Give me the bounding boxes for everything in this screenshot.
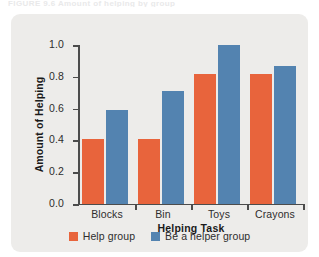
y-axis-tick-label: 0.2 [49,165,64,177]
legend-item-1[interactable]: Help group [69,230,135,242]
legend-item-2[interactable]: Be a helper group [151,230,250,242]
bar-blocks-series-1[interactable] [82,139,104,204]
bar-crayons-series-2[interactable] [274,66,296,204]
chart-panel: Amount of Helping Helping Task 0.00.20.4… [11,14,308,252]
legend-label: Be a helper group [165,230,250,242]
x-axis-tick [303,204,305,210]
y-axis-tick-label: 0.6 [49,102,64,114]
legend-swatch-icon [151,232,160,241]
bar-group: Bin [135,45,191,204]
y-axis-tick-label: 0.4 [49,133,64,145]
bar-toys-series-2[interactable] [218,45,240,204]
bar-group: Blocks [79,45,135,204]
y-axis-tick-label: 0.8 [49,70,64,82]
y-axis-tick: 0.0 [73,204,79,206]
x-axis-category-label: Crayons [247,208,303,220]
chart-legend: Help groupBe a helper group [11,230,308,242]
bar-blocks-series-2[interactable] [106,110,128,204]
figure-caption-sliver: FIGURE 9.6 Amount of helping by group [8,0,308,7]
bar-group: Crayons [247,45,303,204]
figure-container: FIGURE 9.6 Amount of helping by group Am… [0,0,319,257]
x-axis-category-label: Bin [135,208,191,220]
bar-group: Toys [191,45,247,204]
bar-bin-series-2[interactable] [162,91,184,204]
y-axis-tick-label: 1.0 [49,38,64,50]
bar-bin-series-1[interactable] [138,139,160,204]
plot-area: 0.00.20.40.60.81.0 BlocksBinToysCrayons [79,45,303,204]
legend-swatch-icon [69,232,78,241]
y-axis-tick-label: 0.0 [49,197,64,209]
bar-crayons-series-1[interactable] [250,74,272,204]
y-axis-title: Amount of Helping [33,45,47,204]
bar-toys-series-1[interactable] [194,74,216,204]
x-axis-category-label: Toys [191,208,247,220]
legend-label: Help group [83,230,135,242]
x-axis-category-label: Blocks [79,208,135,220]
